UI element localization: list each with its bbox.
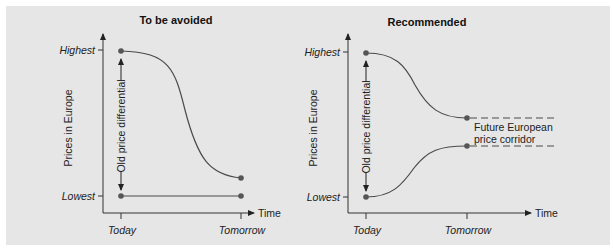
dot-tomorrow-upper	[464, 115, 470, 121]
lowest-price-curve	[366, 146, 467, 197]
y-axis-label: Prices in Europe	[307, 89, 319, 166]
chart-title: Recommended	[388, 16, 467, 28]
dot-today-highest	[363, 50, 369, 56]
y-tick-label-lowest: Lowest	[307, 191, 341, 203]
dot-tomorrow-upper	[238, 175, 244, 181]
dot-tomorrow-lower	[464, 143, 470, 149]
highest-price-curve	[366, 53, 467, 118]
y-tick-label-highest: Highest	[59, 44, 96, 56]
differential-label: Old price differential	[360, 80, 372, 173]
y-tick-label-lowest: Lowest	[62, 190, 96, 202]
dot-tomorrow-lowest	[238, 193, 244, 199]
x-axis-label: Time	[535, 207, 558, 219]
diagram: To be avoided Highest Lowest Today Tomor…	[0, 0, 613, 250]
x-tick-label-tomorrow: Tomorrow	[445, 224, 493, 236]
differential-label: Old price differential	[115, 79, 127, 172]
chart-to-be-avoided: To be avoided Highest Lowest Today Tomor…	[59, 14, 281, 236]
dot-today-lowest	[363, 194, 369, 200]
corridor-label-line1: Future European	[474, 121, 553, 133]
chart-title: To be avoided	[139, 14, 212, 26]
x-tick-label-today: Today	[108, 224, 137, 236]
y-axis-label: Prices in Europe	[62, 89, 74, 166]
x-tick-label-tomorrow: Tomorrow	[219, 224, 267, 236]
dot-today-lowest	[118, 193, 124, 199]
y-tick-label-highest: Highest	[304, 46, 341, 58]
x-axis-label: Time	[258, 207, 281, 219]
x-tick-label-today: Today	[353, 224, 382, 236]
highest-price-curve	[121, 51, 241, 178]
dot-today-highest	[118, 48, 124, 54]
corridor-label-line2: price corridor	[474, 133, 536, 145]
chart-recommended: Recommended Highest Lowest Today Tomorro…	[304, 16, 558, 236]
